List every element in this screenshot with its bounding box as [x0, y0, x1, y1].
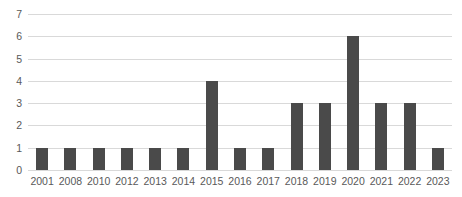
bar-slot: [395, 14, 423, 170]
x-tick-label: 2014: [172, 174, 195, 188]
x-tick-label: 2013: [144, 174, 167, 188]
x-tick-label: 2018: [285, 174, 308, 188]
bar: [291, 103, 303, 170]
x-tick-label: 2023: [426, 174, 449, 188]
bar: [375, 103, 387, 170]
y-axis: 01234567: [0, 14, 22, 170]
bar-slot: [169, 14, 197, 170]
x-tick-label: 2016: [228, 174, 251, 188]
bar: [36, 148, 48, 170]
bar-slot: [254, 14, 282, 170]
x-tick-label: 2010: [87, 174, 110, 188]
x-tick-label: 2021: [370, 174, 393, 188]
x-tick-label: 2008: [59, 174, 82, 188]
bar-slot: [85, 14, 113, 170]
y-tick-label: 2: [0, 120, 22, 131]
bar: [432, 148, 444, 170]
x-tick-label: 2012: [115, 174, 138, 188]
bar: [93, 148, 105, 170]
bars-layer: [28, 14, 452, 170]
bar: [262, 148, 274, 170]
bar-slot: [424, 14, 452, 170]
bar-slot: [113, 14, 141, 170]
x-tick-label: 2017: [257, 174, 280, 188]
x-axis: 2001200820102012201320142015201620172018…: [28, 174, 452, 192]
y-tick-label: 3: [0, 98, 22, 109]
x-tick-label: 2022: [398, 174, 421, 188]
bar-slot: [141, 14, 169, 170]
x-tick-label: 2015: [200, 174, 223, 188]
bar-slot: [311, 14, 339, 170]
bar-slot: [28, 14, 56, 170]
y-tick-label: 5: [0, 53, 22, 64]
bar: [319, 103, 331, 170]
bar-slot: [282, 14, 310, 170]
bar-slot: [56, 14, 84, 170]
x-tick-label: 2001: [30, 174, 53, 188]
y-tick-label: 6: [0, 31, 22, 42]
bar: [347, 36, 359, 170]
y-tick-label: 7: [0, 9, 22, 20]
bar-slot: [226, 14, 254, 170]
bar-slot: [198, 14, 226, 170]
y-tick-label: 0: [0, 165, 22, 176]
bar: [177, 148, 189, 170]
gridline: [28, 170, 452, 171]
bar: [206, 81, 218, 170]
x-tick-label: 2020: [341, 174, 364, 188]
bar: [64, 148, 76, 170]
bar-slot: [339, 14, 367, 170]
bar-slot: [367, 14, 395, 170]
bar-chart: 01234567 2001200820102012201320142015201…: [0, 0, 462, 197]
y-tick-label: 4: [0, 76, 22, 87]
y-tick-label: 1: [0, 142, 22, 153]
bar: [404, 103, 416, 170]
bar: [149, 148, 161, 170]
bar: [234, 148, 246, 170]
x-tick-label: 2019: [313, 174, 336, 188]
bar: [121, 148, 133, 170]
